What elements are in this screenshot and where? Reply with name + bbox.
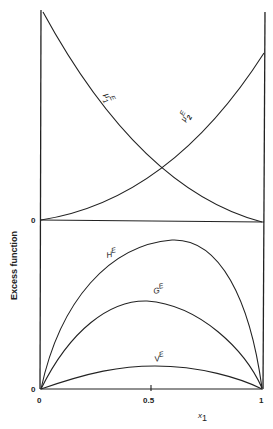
mu2-label: μE2 <box>176 109 194 125</box>
ge-curve <box>41 301 262 389</box>
right-axis <box>263 12 265 389</box>
svg-text:HE: HE <box>105 246 118 260</box>
excess-function-chart: Excess function 0 0 0 0.5 1 x1 μE1 μE2 H… <box>0 0 273 429</box>
x-tick-1: 1 <box>259 396 264 405</box>
x-axis-label-sub: 1 <box>202 413 207 423</box>
svg-text:GE: GE <box>152 282 165 296</box>
upper-zero-label: 0 <box>31 216 36 225</box>
y-axis-label: Excess function <box>9 231 19 300</box>
upper-zero-line <box>40 220 264 222</box>
ve-label: VE <box>153 350 166 364</box>
ge-label: GE <box>152 282 165 296</box>
he-curve <box>41 240 262 389</box>
x-axis-label: x1 <box>197 411 207 423</box>
left-axis <box>40 10 41 389</box>
svg-text:VE: VE <box>153 350 166 364</box>
svg-text:μE2: μE2 <box>176 109 194 125</box>
he-label: HE <box>105 246 118 260</box>
mu1-curve <box>43 12 262 222</box>
mu2-curve <box>41 53 264 220</box>
lower-zero-label: 0 <box>31 385 36 394</box>
x-tick-0: 0 <box>37 396 42 405</box>
x-tick-0.5: 0.5 <box>143 396 155 405</box>
